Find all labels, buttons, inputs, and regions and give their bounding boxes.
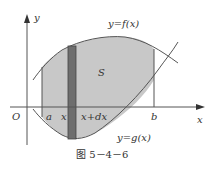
- x-axis-label: x: [197, 114, 203, 125]
- lower-curve-label: y=g(x): [116, 132, 151, 143]
- upper-curve-label: y=f(x): [107, 18, 139, 29]
- x-plus-dx-label: x+dx: [81, 111, 107, 122]
- integration-strip: [68, 46, 76, 139]
- figure-caption: 图 5－4－6: [76, 149, 128, 160]
- area-between-curves-diagram: y x O a x x+dx b S y=f(x) y=g(x) 图 5－4－6: [0, 0, 216, 172]
- y-axis-label: y: [33, 12, 40, 23]
- x-label: x: [61, 111, 67, 122]
- b-label: b: [151, 111, 157, 122]
- origin-label: O: [12, 111, 20, 122]
- x-axis-arrow-icon: [196, 104, 205, 110]
- y-axis-arrow-icon: [24, 14, 30, 23]
- region-S-label: S: [98, 67, 105, 78]
- a-label: a: [46, 111, 52, 122]
